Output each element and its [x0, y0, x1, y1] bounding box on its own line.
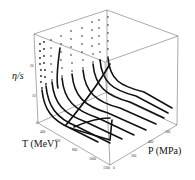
dotted-columns	[39, 16, 109, 89]
z-tick-0: 0	[36, 121, 38, 125]
y-tick-2: 400	[148, 140, 153, 144]
y-tick-3: 100	[165, 130, 170, 134]
x-tick-1: 600	[55, 139, 60, 143]
y-axis-title: P (MPa)	[148, 145, 181, 156]
x-tick-2: 800	[72, 148, 77, 152]
z-tick-1: 10	[32, 94, 36, 98]
z-tick-2: 20	[30, 64, 34, 68]
x-tick-3: 1000	[89, 157, 96, 161]
z-axis-title: η/s	[12, 70, 24, 81]
x-tick-4: 1200	[103, 166, 110, 170]
y-tick-0: 0	[113, 166, 115, 170]
x-tick-0: 400	[40, 130, 45, 134]
x-axis-title: T (MeV)	[22, 138, 58, 149]
y-tick-1: 200	[131, 154, 136, 158]
